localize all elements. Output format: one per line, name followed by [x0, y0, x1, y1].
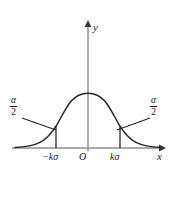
leader-line-right [117, 118, 150, 130]
y-axis-arrowhead [85, 20, 92, 27]
alpha-denominator-right: 2 [150, 108, 157, 118]
alpha-denominator-left: 2 [10, 108, 17, 118]
normal-distribution-figure: y x −kσ O kσ α 2 α 2 [0, 0, 171, 200]
x-axis-label: x [157, 151, 162, 162]
alpha-numerator-left: α [10, 96, 17, 106]
y-axis-label: y [93, 22, 98, 33]
origin-label: O [79, 152, 86, 162]
tick-label-positive-ksigma: kσ [110, 152, 119, 162]
tick-label-negative-ksigma: −kσ [42, 152, 58, 162]
leader-line-left [22, 118, 56, 130]
figure-canvas [0, 0, 171, 200]
annotation-alpha-over-two-left: α 2 [10, 96, 17, 118]
annotation-alpha-over-two-right: α 2 [150, 96, 157, 118]
alpha-numerator-right: α [150, 96, 157, 106]
